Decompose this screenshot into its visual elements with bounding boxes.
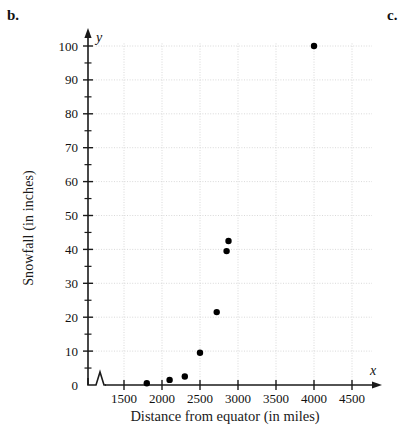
y-tick-label: 40 [65,242,78,257]
data-point [166,377,172,383]
data-point-group [144,43,318,387]
data-point [197,350,203,356]
data-point [225,238,231,244]
x-axis-tick-labels: 1500200025003000350040004500 [111,391,365,406]
scatter-plot: 0102030405060708090100 15002000250030003… [0,0,403,436]
y-tick-label: 80 [65,106,78,121]
axis-break-icon [92,372,106,385]
y-tick-label: 20 [65,310,78,325]
x-tick-label: 1500 [111,391,137,406]
x-tick-label: 3000 [225,391,251,406]
y-tick-label: 60 [65,174,78,189]
y-tick-label: 100 [59,39,79,54]
y-tick-label: 50 [65,208,78,223]
y-tick-label: 0 [72,378,79,393]
x-tick-label: 4500 [339,391,365,406]
x-tick-label: 2500 [187,391,213,406]
gridlines-vertical [124,42,352,385]
data-point [214,309,220,315]
data-point [223,248,229,254]
y-tick-label: 70 [65,140,78,155]
y-tick-label: 10 [65,344,78,359]
y-axis-variable-symbol: y [94,30,103,45]
x-tick-label: 4000 [301,391,327,406]
y-tick-label: 30 [65,276,78,291]
axis-lines [84,28,382,389]
data-point [144,380,150,386]
y-axis-tick-labels: 0102030405060708090100 [59,39,79,393]
gridlines-horizontal [88,46,372,351]
x-tick-label: 3500 [263,391,289,406]
figure-panel-b: b. c. Snowfall (in inches) Distance from… [0,0,403,436]
data-point [182,373,188,379]
x-tick-label: 2000 [149,391,175,406]
y-tick-label: 90 [65,72,78,87]
x-axis-variable-symbol: x [369,363,377,378]
data-point [311,43,317,49]
